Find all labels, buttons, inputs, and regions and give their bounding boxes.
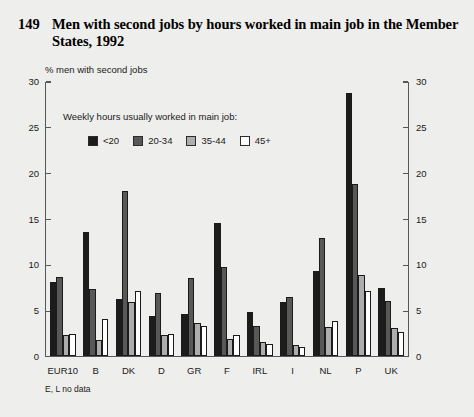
bar[interactable]	[233, 335, 239, 355]
x-axis	[45, 356, 409, 357]
chart-footnote: E, L no data	[45, 384, 91, 394]
bar[interactable]	[365, 291, 371, 355]
bar[interactable]	[332, 321, 338, 356]
y-axis-label-left: 5	[13, 306, 39, 316]
bar[interactable]	[299, 347, 305, 355]
bar-group	[313, 82, 339, 356]
x-axis-category-label: B	[92, 365, 98, 376]
plot-area: 005510101515202025253030	[45, 82, 409, 357]
bar[interactable]	[398, 332, 404, 356]
bar-group	[83, 82, 109, 356]
x-axis-category-label: UK	[385, 365, 398, 376]
bar-group	[181, 82, 207, 356]
bar[interactable]	[168, 334, 174, 356]
y-axis-label-left: 25	[13, 123, 39, 133]
x-axis-category-label: DK	[122, 365, 135, 376]
bar-group	[50, 82, 76, 356]
bar[interactable]	[201, 326, 207, 355]
axis-subtitle: % men with second jobs	[45, 64, 147, 75]
bar-group	[116, 82, 142, 356]
bar-group	[378, 82, 404, 356]
x-axis-category-label: F	[224, 365, 230, 376]
x-axis-category-label: D	[158, 365, 165, 376]
bar[interactable]	[135, 291, 141, 355]
y-axis-label-left: 10	[13, 260, 39, 270]
bar-group	[214, 82, 240, 356]
y-axis-label-right: 20	[416, 169, 442, 179]
x-axis-category-label: I	[291, 365, 294, 376]
y-axis-label-left: 15	[13, 215, 39, 225]
bar[interactable]	[266, 344, 272, 356]
figure-title-block: 149 Men with second jobs by hours worked…	[18, 16, 458, 50]
bar[interactable]	[102, 319, 108, 356]
y-axis-label-left: 20	[13, 169, 39, 179]
bar-group	[149, 82, 175, 356]
x-axis-category-label: IRL	[252, 365, 267, 376]
page-title: Men with second jobs by hours worked in …	[52, 16, 458, 50]
x-axis-category-label: EUR10	[48, 365, 79, 376]
y-axis-label-right: 15	[416, 215, 442, 225]
x-axis-category-label: P	[355, 365, 361, 376]
figure-page: 149 Men with second jobs by hours worked…	[0, 0, 474, 417]
x-axis-category-label: NL	[319, 365, 331, 376]
bar[interactable]	[69, 334, 75, 356]
bar-group	[346, 82, 372, 356]
y-axis-label-right: 10	[416, 260, 442, 270]
bar-group	[280, 82, 306, 356]
x-axis-category-label: GR	[187, 365, 201, 376]
y-axis-label-left: 0	[13, 352, 39, 362]
y-axis-label-right: 5	[416, 306, 442, 316]
figure-number: 149	[18, 16, 52, 33]
y-axis-label-right: 25	[416, 123, 442, 133]
y-axis-label-right: 0	[416, 352, 442, 362]
bars-container	[46, 82, 407, 356]
y-axis-label-left: 30	[13, 77, 39, 87]
y-axis-label-right: 30	[416, 77, 442, 87]
bar-group	[247, 82, 273, 356]
